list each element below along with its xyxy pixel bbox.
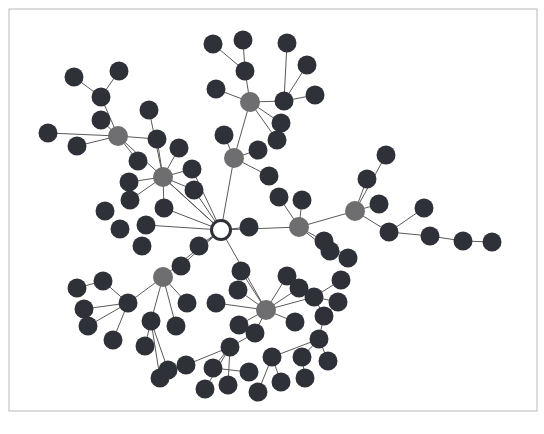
graph-node-leaf[interactable] <box>65 68 84 87</box>
graph-node-leaf[interactable] <box>204 359 223 378</box>
graph-node-leaf[interactable] <box>421 227 440 246</box>
graph-node-leaf[interactable] <box>207 80 226 99</box>
graph-node-leaf[interactable] <box>140 101 159 120</box>
graph-node-leaf[interactable] <box>332 271 351 290</box>
graph-node-leaf[interactable] <box>240 218 259 237</box>
graph-node-leaf[interactable] <box>236 62 255 81</box>
graph-node-leaf[interactable] <box>39 124 58 143</box>
graph-node-leaf[interactable] <box>110 62 129 81</box>
graph-node-leaf[interactable] <box>142 312 161 331</box>
graph-node-leaf[interactable] <box>92 111 111 130</box>
graph-node-leaf[interactable] <box>155 199 174 218</box>
graph-node-leaf[interactable] <box>454 232 473 251</box>
graph-node-hub[interactable] <box>108 126 128 146</box>
graph-node-leaf[interactable] <box>167 317 186 336</box>
graph-node-leaf[interactable] <box>204 35 223 54</box>
graph-node-leaf[interactable] <box>68 137 87 156</box>
graph-node-leaf[interactable] <box>221 338 240 357</box>
graph-node-leaf[interactable] <box>296 369 315 388</box>
graph-node-leaf[interactable] <box>268 131 287 150</box>
graph-node-leaf[interactable] <box>215 126 234 145</box>
graph-node-root[interactable] <box>212 221 231 240</box>
graph-node-leaf[interactable] <box>229 281 248 300</box>
graph-node-leaf[interactable] <box>305 288 324 307</box>
graph-node-leaf[interactable] <box>321 242 340 261</box>
graph-node-leaf[interactable] <box>129 152 148 171</box>
graph-node-leaf[interactable] <box>315 307 334 326</box>
graph-node-leaf[interactable] <box>219 376 238 395</box>
graph-node-leaf[interactable] <box>240 363 259 382</box>
graph-node-leaf[interactable] <box>483 233 502 252</box>
graph-node-leaf[interactable] <box>298 56 317 75</box>
graph-node-leaf[interactable] <box>232 262 251 281</box>
graph-node-leaf[interactable] <box>272 373 291 392</box>
graph-node-leaf[interactable] <box>339 249 358 268</box>
graph-node-leaf[interactable] <box>190 237 209 256</box>
graph-node-leaf[interactable] <box>286 313 305 332</box>
graph-node-hub[interactable] <box>345 201 365 221</box>
graph-node-leaf[interactable] <box>183 160 202 179</box>
graph-node-hub[interactable] <box>289 217 309 237</box>
graph-canvas <box>0 0 544 434</box>
graph-node-leaf[interactable] <box>177 356 196 375</box>
graph-node-leaf[interactable] <box>172 257 191 276</box>
graph-node-leaf[interactable] <box>230 316 249 335</box>
graph-node-leaf[interactable] <box>234 31 253 50</box>
graph-node-leaf[interactable] <box>196 380 215 399</box>
graph-node-leaf[interactable] <box>249 141 268 160</box>
network-graph-figure <box>0 0 544 434</box>
graph-node-hub[interactable] <box>153 267 173 287</box>
graph-node-leaf[interactable] <box>170 139 189 158</box>
graph-node-leaf[interactable] <box>319 352 338 371</box>
graph-node-leaf[interactable] <box>111 220 130 239</box>
graph-node-leaf[interactable] <box>79 317 98 336</box>
graph-node-hub[interactable] <box>256 300 276 320</box>
graph-node-leaf[interactable] <box>136 337 155 356</box>
graph-node-leaf[interactable] <box>75 300 94 319</box>
canvas-background <box>0 0 544 434</box>
graph-node-leaf[interactable] <box>120 173 139 192</box>
graph-node-leaf[interactable] <box>293 191 312 210</box>
graph-node-leaf[interactable] <box>260 167 279 186</box>
graph-node-leaf[interactable] <box>415 199 434 218</box>
graph-node-leaf[interactable] <box>329 293 348 312</box>
graph-node-hub[interactable] <box>224 148 244 168</box>
graph-node-leaf[interactable] <box>278 34 297 53</box>
graph-node-leaf[interactable] <box>94 272 113 291</box>
graph-node-leaf[interactable] <box>68 279 87 298</box>
graph-node-leaf[interactable] <box>96 202 115 221</box>
graph-node-leaf[interactable] <box>121 191 140 210</box>
graph-node-leaf[interactable] <box>270 188 289 207</box>
graph-node-leaf[interactable] <box>249 383 268 402</box>
graph-node-leaf[interactable] <box>370 195 389 214</box>
graph-node-leaf[interactable] <box>358 170 377 189</box>
graph-node-leaf[interactable] <box>104 331 123 350</box>
graph-node-leaf[interactable] <box>151 369 170 388</box>
graph-node-leaf[interactable] <box>133 237 152 256</box>
graph-node-leaf[interactable] <box>377 146 396 165</box>
graph-node-leaf[interactable] <box>306 86 325 105</box>
graph-node-leaf[interactable] <box>119 294 138 313</box>
graph-node-leaf[interactable] <box>137 216 156 235</box>
graph-node-leaf[interactable] <box>207 294 226 313</box>
graph-node-hub[interactable] <box>240 92 260 112</box>
graph-node-leaf[interactable] <box>92 88 111 107</box>
graph-node-leaf[interactable] <box>310 330 329 349</box>
graph-node-leaf[interactable] <box>185 181 204 200</box>
graph-node-leaf[interactable] <box>148 130 167 149</box>
graph-node-leaf[interactable] <box>263 348 282 367</box>
graph-node-leaf[interactable] <box>275 92 294 111</box>
graph-node-hub[interactable] <box>153 167 173 187</box>
graph-node-leaf[interactable] <box>272 114 291 133</box>
graph-node-leaf[interactable] <box>380 223 399 242</box>
graph-node-leaf[interactable] <box>178 294 197 313</box>
graph-node-leaf[interactable] <box>293 348 312 367</box>
